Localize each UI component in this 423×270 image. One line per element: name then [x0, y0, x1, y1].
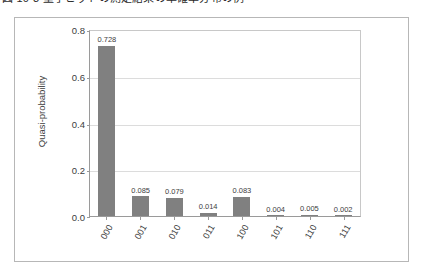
bar-slot: 0.728 — [90, 31, 124, 216]
y-axis-tick-label: 0.8 — [59, 25, 85, 36]
bar[interactable] — [132, 196, 149, 216]
x-axis-tick-label: 000 — [98, 223, 114, 241]
bar[interactable] — [166, 198, 183, 216]
x-axis-tick-label: 101 — [268, 223, 284, 241]
x-axis-label-slot: 101 — [259, 221, 293, 261]
x-axis-tick-label: 010 — [166, 223, 182, 241]
x-axis-tick-label: 011 — [201, 223, 217, 240]
y-axis-title: Quasi-probability — [36, 52, 47, 172]
bar-value-label: 0.728 — [90, 35, 124, 44]
x-axis-tickmark — [208, 217, 209, 220]
x-axis-tick-label: 110 — [303, 223, 319, 240]
x-axis-label-slot: 111 — [327, 221, 361, 261]
bar-value-label: 0.005 — [293, 204, 327, 213]
x-axis-tickmark — [140, 217, 141, 220]
y-axis-tick-label: 0.4 — [59, 118, 85, 129]
bar[interactable] — [200, 213, 217, 216]
x-axis-label-slot: 110 — [293, 221, 327, 261]
x-axis-label-slot: 001 — [123, 221, 157, 261]
y-axis-tick-labels: 0.00.20.40.60.8 — [49, 18, 85, 263]
bar[interactable] — [267, 215, 284, 216]
x-axis-tickmark — [242, 217, 243, 220]
bar-chart: Quasi-probability 0.00.20.40.60.8 0.7280… — [15, 18, 410, 263]
figure-caption-text: 図 10-3 量子ビットの測定結果の準確率分布の例 — [0, 0, 423, 5]
x-axis-tick-label: 111 — [337, 223, 353, 240]
bar-slot: 0.079 — [158, 31, 192, 216]
x-axis-label-slot: 100 — [225, 221, 259, 261]
bar[interactable] — [233, 197, 250, 216]
bar[interactable] — [98, 46, 115, 216]
x-axis-label-slot: 000 — [89, 221, 123, 261]
x-axis-tickmark — [106, 217, 107, 220]
x-axis-tickmark — [310, 217, 311, 220]
figure-frame: Quasi-probability 0.00.20.40.60.8 0.7280… — [14, 17, 409, 262]
bar-series: 0.7280.0850.0790.0140.0830.0040.0050.002 — [90, 31, 360, 216]
x-axis-tick-labels: 000001010011100101110111 — [89, 221, 361, 261]
x-axis-label-slot: 010 — [157, 221, 191, 261]
bar-slot: 0.085 — [124, 31, 158, 216]
bar-value-label: 0.079 — [158, 187, 192, 196]
bar-slot: 0.004 — [259, 31, 293, 216]
bar[interactable] — [301, 215, 318, 216]
y-axis-tick-label: 0.0 — [59, 212, 85, 223]
bar-value-label: 0.002 — [326, 205, 360, 214]
x-axis-tick-label: 001 — [132, 223, 148, 241]
bar-value-label: 0.014 — [191, 202, 225, 211]
bar-slot: 0.014 — [191, 31, 225, 216]
x-axis-tickmark — [276, 217, 277, 220]
bar-slot: 0.002 — [326, 31, 360, 216]
bar-value-label: 0.083 — [225, 186, 259, 195]
bar-value-label: 0.004 — [259, 205, 293, 214]
x-axis-tick-label: 100 — [234, 223, 250, 241]
bar-slot: 0.083 — [225, 31, 259, 216]
y-axis-tick-label: 0.6 — [59, 71, 85, 82]
bar-value-label: 0.085 — [124, 186, 158, 195]
figure-caption: 図 10-3 量子ビットの測定結果の準確率分布の例 — [0, 0, 423, 5]
plot-area: 0.7280.0850.0790.0140.0830.0040.0050.002 — [89, 30, 361, 217]
bar[interactable] — [335, 215, 352, 216]
x-axis-tickmark — [174, 217, 175, 220]
y-axis-tick-label: 0.2 — [59, 165, 85, 176]
bar-slot: 0.005 — [293, 31, 327, 216]
x-axis-label-slot: 011 — [191, 221, 225, 261]
x-axis-tickmark — [344, 217, 345, 220]
